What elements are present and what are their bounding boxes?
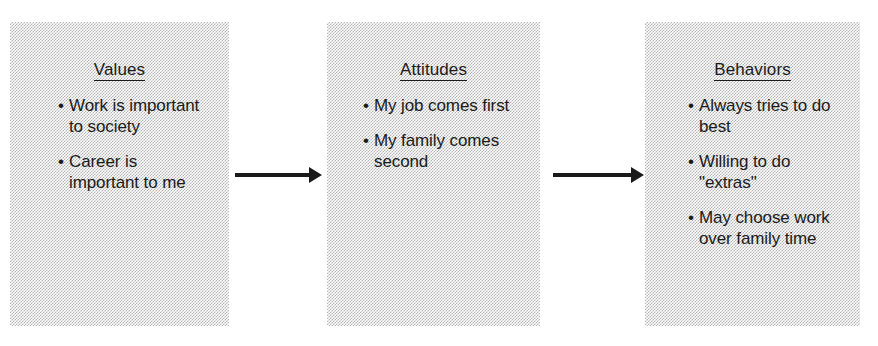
list-item-text: Career is important to me [69,152,186,192]
bullet-point-icon: • [363,130,369,151]
box-attitudes: Attitudes • My job comes first • My fami… [327,22,540,326]
bullet-point-icon: • [688,207,694,228]
arrow-attitudes-to-behaviors [553,164,645,186]
list-item-text: My job comes first [374,96,509,115]
arrow-shaft [235,173,311,177]
box-behaviors-heading: Behaviors [645,60,860,80]
box-attitudes-heading-text: Attitudes [400,60,467,81]
diagram-canvas: Values • Work is important to society • … [0,0,878,346]
arrow-head-icon [309,167,322,183]
arrow-shaft [553,173,633,177]
list-item: • Career is important to me [58,151,208,193]
list-item-text: May choose work over family time [699,208,830,248]
box-behaviors: Behaviors • Always tries to do best • Wi… [645,22,860,326]
bullet-point-icon: • [58,151,64,172]
list-item: • Willing to do "extras" [688,151,848,193]
list-item-text: My family comes second [374,131,499,171]
box-attitudes-bullet-list: • My job comes first • My family comes s… [363,95,528,172]
box-behaviors-bullet-list: • Always tries to do best • Willing to d… [688,95,848,249]
arrow-values-to-attitudes [235,164,323,186]
list-item: • My family comes second [363,130,528,172]
box-values-heading: Values [10,60,229,80]
box-values-bullet-list: • Work is important to society • Career … [58,95,208,193]
arrow-head-icon [631,167,644,183]
list-item-text: Always tries to do best [699,96,830,136]
bullet-point-icon: • [58,95,64,116]
list-item: • Always tries to do best [688,95,848,137]
box-values: Values • Work is important to society • … [10,22,229,326]
list-item: • Work is important to society [58,95,208,137]
box-attitudes-heading: Attitudes [327,60,540,80]
list-item-text: Willing to do "extras" [699,152,790,192]
list-item: • My job comes first [363,95,528,116]
bullet-point-icon: • [363,95,369,116]
bullet-point-icon: • [688,151,694,172]
box-behaviors-heading-text: Behaviors [714,60,791,81]
bullet-point-icon: • [688,95,694,116]
box-values-heading-text: Values [94,60,145,81]
list-item-text: Work is important to society [69,96,199,136]
list-item: • May choose work over family time [688,207,848,249]
